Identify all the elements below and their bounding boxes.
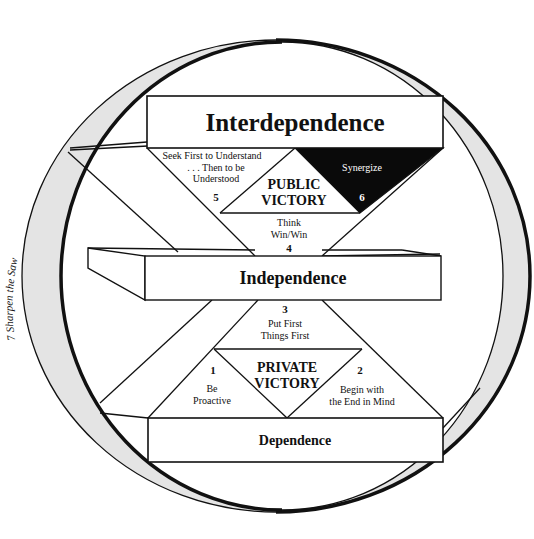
svg-text:5: 5 — [213, 191, 219, 203]
svg-text:1: 1 — [210, 364, 216, 376]
svg-text:Understood: Understood — [193, 173, 240, 184]
svg-text:Synergize: Synergize — [342, 162, 382, 173]
svg-text:Be: Be — [206, 383, 218, 394]
svg-text:2: 2 — [357, 364, 363, 376]
svg-text:Think: Think — [277, 217, 301, 228]
svg-text:Begin with: Begin with — [340, 384, 384, 395]
svg-text:4: 4 — [286, 242, 292, 254]
svg-text:Seek First to Understand: Seek First to Understand — [162, 150, 261, 161]
private-victory-line1: PRIVATE — [257, 360, 317, 375]
svg-text:Things First: Things First — [261, 330, 310, 341]
public-victory-line2: VICTORY — [261, 193, 326, 208]
svg-text:Proactive: Proactive — [193, 395, 231, 406]
habits-diagram: 7 Sharpen the Saw — [0, 0, 534, 539]
svg-text:Put First: Put First — [268, 318, 302, 329]
sharpen-the-saw-label: 7 Sharpen the Saw — [3, 256, 20, 342]
private-victory-line2: VICTORY — [254, 376, 319, 391]
svg-text:the End in Mind: the End in Mind — [329, 396, 394, 407]
interdependence-label: Interdependence — [205, 109, 384, 136]
svg-text:6: 6 — [359, 191, 365, 203]
dependence-label: Dependence — [259, 433, 331, 448]
svg-text:. . . Then to be: . . . Then to be — [187, 162, 245, 173]
svg-text:Win/Win: Win/Win — [271, 229, 307, 240]
svg-text:3: 3 — [282, 303, 288, 315]
public-victory-line1: PUBLIC — [268, 177, 321, 192]
independence-label: Independence — [239, 268, 346, 288]
